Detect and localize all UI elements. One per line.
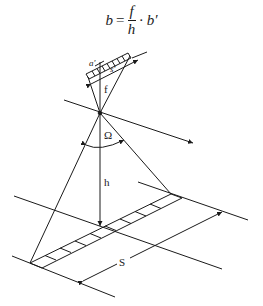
label-swath-width: S (119, 256, 125, 268)
field-of-view-arc (86, 140, 124, 148)
sensor-geometry-diagram: b = f h · b′ (0, 0, 263, 306)
ground-swath-strip (30, 194, 182, 268)
ground-line-center (14, 196, 222, 269)
diagram-drawing: a′ s′ f Ω h S (0, 0, 263, 306)
swath-dimension-right (130, 212, 222, 258)
ray-right-ground (100, 113, 171, 194)
ground-line-right (138, 182, 248, 220)
label-focal-length: f (104, 83, 108, 95)
ray-left-ground (30, 113, 100, 263)
detector-extension-line (132, 52, 147, 58)
label-omega: Ω (104, 129, 112, 141)
swath-dimension-left (83, 264, 117, 281)
label-pixel-size: a′ (89, 58, 97, 68)
label-height: h (104, 176, 110, 188)
ground-line-left (12, 256, 115, 297)
flight-direction-arrow (64, 100, 193, 143)
